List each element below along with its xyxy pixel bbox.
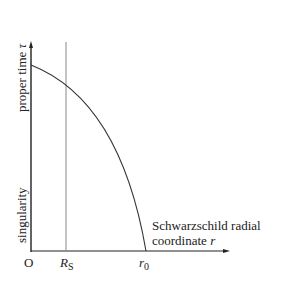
y-axis-label-text: proper time (14, 52, 29, 112)
r0-label: r0 (139, 256, 149, 274)
infall-trajectory-curve (31, 65, 146, 251)
diagram: proper time τ singularity O RS r0 Schwar… (0, 0, 282, 282)
tau-symbol: τ (14, 44, 29, 49)
x-axis-label-line1: Schwarzschild radial (152, 219, 261, 233)
diagram-canvas (0, 0, 282, 282)
singularity-label: singularity (14, 187, 30, 243)
r0-label-sub: 0 (144, 261, 149, 272)
y-axis-label: proper time τ (14, 44, 30, 112)
r-symbol: r (210, 233, 215, 248)
x-axis-label-text: coordinate (152, 233, 207, 248)
rs-label-main: R (60, 255, 68, 270)
rs-label: RS (60, 256, 74, 274)
rs-label-sub: S (68, 261, 74, 272)
x-axis-label-line2: coordinate r (152, 234, 215, 248)
x-axis-arrow-icon (223, 249, 230, 253)
origin-label: O (24, 256, 33, 270)
